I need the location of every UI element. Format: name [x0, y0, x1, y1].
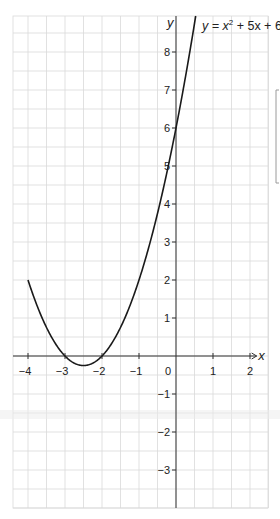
y-tick-label: −2	[157, 426, 170, 438]
y-axis-label: y	[166, 15, 175, 30]
y-tick-label: 4	[164, 198, 170, 210]
equation-post: + 5x + 6	[233, 19, 280, 33]
y-tick-label: −1	[157, 388, 170, 400]
grid	[13, 16, 269, 508]
y-tick-label: 3	[164, 236, 170, 248]
equation-pre: y = x	[201, 19, 229, 33]
x-tick-label: −2	[93, 365, 106, 377]
y-tick-label: 7	[164, 84, 170, 96]
y-tick-label: 8	[164, 46, 170, 58]
page-edge-bracket	[276, 90, 279, 183]
scan-band	[0, 410, 280, 419]
x-tick-label: −4	[19, 365, 32, 377]
equation-label: y = x2 + 5x + 6	[201, 18, 280, 33]
x-tick-label: −1	[130, 365, 143, 377]
x-tick-label: 1	[210, 365, 216, 377]
x-tick-label: −3	[56, 365, 69, 377]
y-tick-label: 1	[164, 312, 170, 324]
x-tick-label: 2	[247, 365, 253, 377]
quadratic-graph: −4−3−2−101287654321−1−2−3 x y y = x2 + 5…	[0, 0, 280, 519]
series-curve	[28, 16, 196, 366]
x-axis-label: x	[257, 348, 265, 363]
y-tick-label: 6	[164, 122, 170, 134]
y-tick-label: 2	[164, 274, 170, 286]
y-tick-label: −3	[157, 464, 170, 476]
x-tick-label: 0	[165, 365, 171, 377]
